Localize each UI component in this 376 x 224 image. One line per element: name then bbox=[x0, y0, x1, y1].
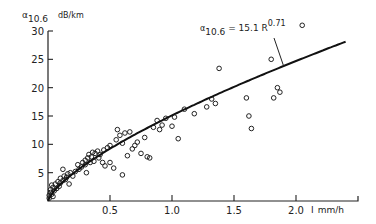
y-tick-label: 25 bbox=[31, 54, 44, 65]
data-point bbox=[111, 166, 116, 171]
data-point bbox=[103, 164, 108, 169]
data-point bbox=[118, 133, 123, 138]
data-point bbox=[157, 127, 162, 132]
data-point bbox=[271, 96, 276, 101]
data-point bbox=[192, 111, 197, 116]
data-point bbox=[139, 151, 144, 156]
data-point bbox=[67, 182, 72, 187]
data-point bbox=[120, 173, 125, 178]
data-point bbox=[249, 126, 254, 131]
y-axis-label: α10.6dB/km bbox=[22, 10, 84, 24]
data-point bbox=[135, 140, 140, 145]
x-tick-label: 1.5 bbox=[226, 205, 242, 216]
x-tick-label: 1.0 bbox=[164, 205, 180, 216]
data-point bbox=[278, 90, 283, 95]
data-point bbox=[204, 105, 209, 110]
data-point bbox=[128, 130, 133, 135]
y-tick-label: 20 bbox=[31, 83, 44, 94]
data-point bbox=[170, 124, 175, 129]
data-point bbox=[217, 66, 222, 71]
data-point bbox=[176, 136, 181, 141]
data-point bbox=[61, 167, 66, 172]
x-tick-label: 2.0 bbox=[288, 205, 304, 216]
y-tick-label: 5 bbox=[38, 168, 44, 179]
scatter-chart: 510152025300.51.01.52.0 α10.6dB/km Imm/h… bbox=[0, 0, 376, 224]
annotation-leader-line bbox=[274, 38, 284, 66]
y-tick-label: 10 bbox=[31, 139, 44, 150]
data-point bbox=[275, 85, 280, 90]
y-tick-label: 30 bbox=[31, 26, 44, 37]
x-axis-unit-label: Imm/h bbox=[311, 205, 344, 215]
data-point bbox=[84, 170, 89, 175]
data-point bbox=[244, 96, 249, 101]
data-point bbox=[123, 131, 128, 136]
fit-equation-annotation: α10.6 = 15.1 R0.71 bbox=[200, 19, 286, 37]
data-point bbox=[114, 138, 119, 143]
data-points bbox=[47, 23, 305, 201]
data-point bbox=[213, 101, 218, 106]
axes bbox=[48, 31, 358, 201]
data-point bbox=[160, 123, 165, 128]
data-point bbox=[125, 153, 130, 158]
data-point bbox=[142, 135, 147, 140]
data-point bbox=[115, 127, 120, 132]
fit-curve bbox=[48, 42, 346, 201]
data-point bbox=[247, 114, 252, 119]
tick-labels: 510152025300.51.01.52.0 bbox=[31, 26, 304, 216]
y-tick-label: 15 bbox=[31, 111, 44, 122]
data-point bbox=[108, 160, 113, 165]
data-point bbox=[300, 23, 305, 28]
data-point bbox=[269, 57, 274, 62]
x-tick-label: 0.5 bbox=[102, 205, 118, 216]
